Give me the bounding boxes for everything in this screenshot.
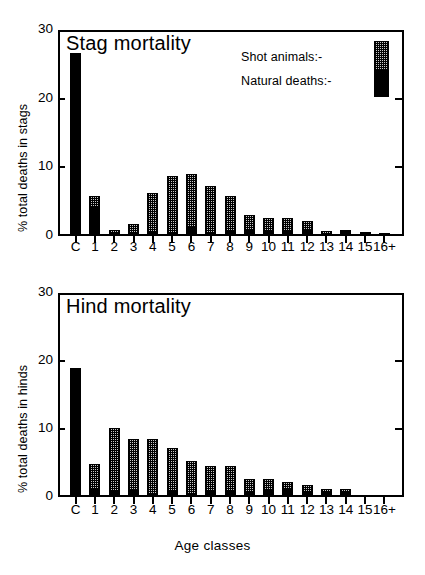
xtick-label-16+: 16+ xyxy=(373,239,396,254)
bar-segment-shot xyxy=(302,221,313,231)
xtick-label-10: 10 xyxy=(261,502,276,517)
xtick-label-7: 7 xyxy=(207,502,215,517)
stag-bar-series xyxy=(58,30,404,236)
xtick-label-1: 1 xyxy=(91,502,99,517)
bar-1 xyxy=(89,464,100,497)
bar-segment-natural xyxy=(70,368,81,497)
stag-ytick-label: 20 xyxy=(27,90,53,105)
xtick-label-12: 12 xyxy=(300,239,315,254)
bar-segment-natural xyxy=(89,208,100,236)
bar-8 xyxy=(225,466,236,497)
bar-segment-shot xyxy=(89,196,100,208)
legend-label-shot: Shot animals:- xyxy=(241,50,322,64)
bar-segment-shot xyxy=(167,176,178,233)
bar-segment-shot xyxy=(128,439,139,491)
xtick-label-9: 9 xyxy=(246,502,254,517)
bar-9 xyxy=(244,479,255,497)
xtick-label-12: 12 xyxy=(300,502,315,517)
bar-segment-shot xyxy=(282,482,293,489)
bar-11 xyxy=(282,218,293,236)
legend-swatch-natural-icon xyxy=(375,69,388,96)
bar-1 xyxy=(89,196,100,237)
bar-4 xyxy=(147,193,158,236)
bar-14 xyxy=(340,489,351,497)
xtick-label-6: 6 xyxy=(188,502,196,517)
stag-mortality-panel: Stag mortality % total deaths in stags 0… xyxy=(0,0,425,290)
xtick-label-14: 14 xyxy=(338,502,353,517)
xtick-label-4: 4 xyxy=(149,502,157,517)
bar-segment-shot xyxy=(128,224,139,234)
bar-segment-shot xyxy=(147,193,158,234)
xtick-label-1: 1 xyxy=(91,239,99,254)
bar-6 xyxy=(186,174,197,236)
bar-12 xyxy=(302,485,313,497)
bar-segment-shot xyxy=(167,448,178,491)
bar-segment-natural xyxy=(282,490,293,497)
hind-ytick-label: 0 xyxy=(27,488,53,503)
bar-8 xyxy=(225,196,236,236)
bar-segment-natural xyxy=(70,53,81,236)
bar-segment-shot xyxy=(225,466,236,490)
bar-segment-shot xyxy=(89,464,100,489)
hind-ytick-label: 20 xyxy=(27,352,53,367)
bar-3 xyxy=(128,439,139,497)
bar-segment-shot xyxy=(186,174,197,228)
legend-label-natural: Natural deaths:- xyxy=(241,74,332,88)
bar-segment-natural xyxy=(89,489,100,497)
legend-swatch xyxy=(374,41,389,97)
bar-4 xyxy=(147,439,158,497)
xtick-label-7: 7 xyxy=(207,239,215,254)
bar-6 xyxy=(186,461,197,497)
xtick-label-2: 2 xyxy=(110,502,118,517)
bar-C xyxy=(70,53,81,236)
xtick-label-13: 13 xyxy=(319,502,334,517)
bar-7 xyxy=(205,466,216,497)
xtick-label-4: 4 xyxy=(149,239,157,254)
bar-C xyxy=(70,368,81,497)
hind-ytick-label: 30 xyxy=(27,284,53,299)
bar-2 xyxy=(109,428,120,497)
xtick-label-3: 3 xyxy=(130,239,138,254)
bar-segment-natural xyxy=(186,227,197,236)
bar-segment-shot xyxy=(263,218,274,230)
bar-5 xyxy=(167,176,178,236)
xtick-label-6: 6 xyxy=(188,239,196,254)
bar-13 xyxy=(321,489,332,497)
bar-segment-shot xyxy=(225,196,236,230)
legend-swatch-shot-icon xyxy=(375,42,388,69)
xtick-label-5: 5 xyxy=(168,239,176,254)
xtick-label-10: 10 xyxy=(261,239,276,254)
xtick-label-14: 14 xyxy=(338,239,353,254)
xtick-label-13: 13 xyxy=(319,239,334,254)
bar-segment-shot xyxy=(186,461,197,494)
bar-segment-shot xyxy=(263,479,274,491)
xtick-label-15: 15 xyxy=(358,502,373,517)
bar-5 xyxy=(167,448,178,497)
xtick-label-11: 11 xyxy=(281,239,295,254)
xtick-label-11: 11 xyxy=(281,502,295,517)
bar-segment-shot xyxy=(205,466,216,490)
bar-segment-shot xyxy=(282,218,293,230)
x-axis-title: Age classes xyxy=(0,538,425,553)
stag-ytick-label: 0 xyxy=(27,227,53,242)
bar-7 xyxy=(205,186,216,236)
bar-segment-shot xyxy=(147,439,158,495)
bar-10 xyxy=(263,218,274,236)
xtick-label-8: 8 xyxy=(226,502,234,517)
xtick-label-C: C xyxy=(71,239,81,254)
bar-segment-shot xyxy=(109,428,120,491)
hind-ytick-label: 10 xyxy=(27,420,53,435)
xtick-label-5: 5 xyxy=(168,502,176,517)
bar-12 xyxy=(302,221,313,236)
bar-11 xyxy=(282,482,293,497)
bar-segment-shot xyxy=(205,186,216,233)
hind-mortality-panel: Hind mortality % total deaths in hinds 0… xyxy=(0,285,425,575)
xtick-label-16+: 16+ xyxy=(373,502,396,517)
xtick-label-3: 3 xyxy=(130,502,138,517)
bar-segment-shot xyxy=(244,479,255,491)
xtick-label-C: C xyxy=(71,502,81,517)
bar-3 xyxy=(128,224,139,236)
xtick-label-2: 2 xyxy=(110,239,118,254)
bar-segment-shot xyxy=(244,215,255,231)
hind-bar-series xyxy=(58,293,404,497)
